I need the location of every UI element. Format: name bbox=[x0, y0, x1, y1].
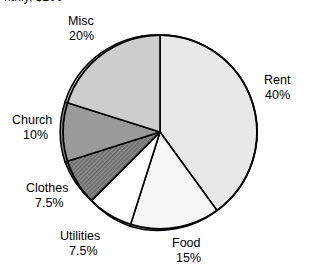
slice-label-rent-name: Rent bbox=[264, 73, 290, 87]
slice-label-clothes-percent: 7.5% bbox=[26, 196, 68, 211]
slice-label-rent-percent: 40% bbox=[264, 88, 290, 103]
slice-label-food-name: Food bbox=[172, 236, 201, 250]
slice-label-misc: Misc 20% bbox=[68, 14, 94, 43]
slice-label-misc-name: Misc bbox=[68, 14, 94, 28]
slice-label-food: Food 15% bbox=[172, 236, 201, 265]
slice-label-church: Church 10% bbox=[12, 113, 52, 142]
slice-label-clothes: Clothes 7.5% bbox=[26, 181, 68, 210]
slice-label-rent: Rent 40% bbox=[264, 73, 290, 102]
slice-label-church-name: Church bbox=[12, 113, 52, 127]
slice-label-utilities: Utilities 7.5% bbox=[60, 229, 100, 258]
pie-chart-figure: nthly, $200 Misc 20% Rent 40% Church bbox=[0, 0, 313, 275]
slice-label-church-percent: 10% bbox=[12, 128, 52, 143]
slice-label-utilities-name: Utilities bbox=[60, 229, 100, 243]
slice-label-misc-percent: 20% bbox=[68, 29, 94, 44]
slice-label-utilities-percent: 7.5% bbox=[60, 244, 100, 259]
slice-label-food-percent: 15% bbox=[172, 251, 201, 266]
slice-label-clothes-name: Clothes bbox=[26, 181, 68, 195]
